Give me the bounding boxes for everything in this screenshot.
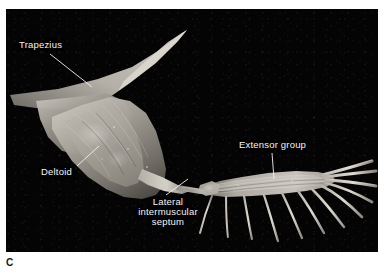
panel-letter: C (6, 257, 13, 268)
photo-plate: Trapezius Deltoid Lateral intermuscular … (6, 9, 378, 252)
specimen-illustration (6, 9, 378, 252)
anatomy-figure: Trapezius Deltoid Lateral intermuscular … (0, 0, 386, 274)
